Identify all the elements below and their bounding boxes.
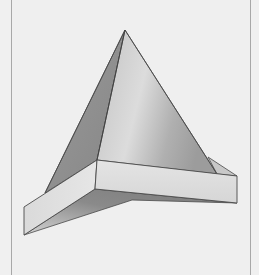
pyramid-band-illustration <box>0 0 259 275</box>
